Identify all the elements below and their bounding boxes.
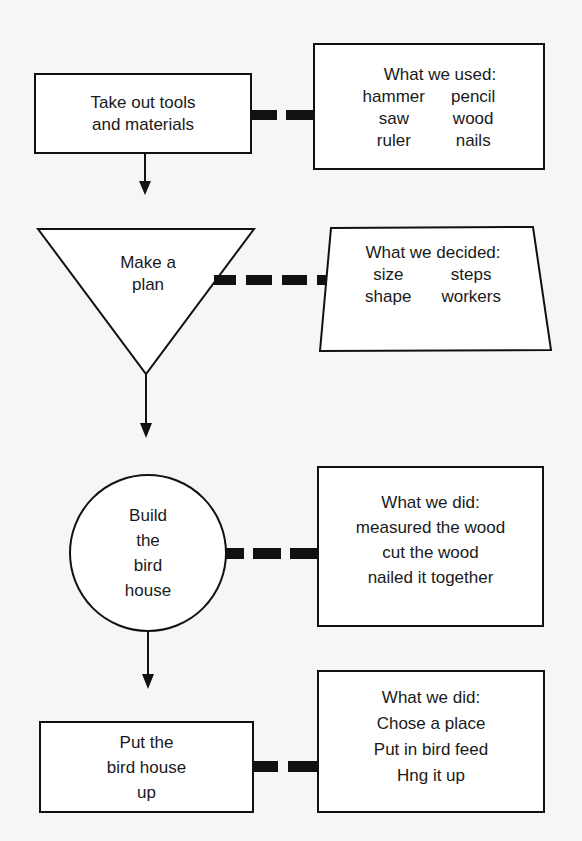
step-4-line: up: [137, 780, 156, 805]
note-item: shape: [365, 286, 411, 308]
step-3-label: Build the bird house: [80, 503, 216, 603]
note-item: size: [365, 264, 411, 286]
note-item: cut the wood: [382, 540, 478, 565]
note-3-text: What we did: measured the wood cut the w…: [318, 467, 543, 626]
arrow-down-icon: [140, 374, 152, 438]
note-2-heading: What we decided:: [365, 242, 500, 264]
step-2-label: Make a plan: [90, 244, 206, 304]
note-item: Chose a place: [377, 711, 486, 737]
step-2-line: Make a: [120, 252, 176, 274]
dashed-connector-2: [214, 275, 327, 285]
dashed-connector-4: [253, 761, 318, 772]
note-item: Hng it up: [397, 763, 465, 789]
step-3-line: Build: [129, 503, 167, 528]
arrow-down-icon: [139, 153, 151, 195]
step-2-line: plan: [132, 274, 164, 296]
step-3-line: the: [136, 528, 160, 553]
dashed-connector-3: [225, 548, 318, 559]
note-item: workers: [441, 286, 501, 308]
note-4-text: What we did: Chose a place Put in bird f…: [318, 671, 544, 812]
step-4-line: bird house: [107, 755, 186, 780]
note-item: Put in bird feed: [374, 737, 488, 763]
step-1-line: and materials: [92, 114, 194, 136]
dashed-connector-1: [251, 110, 314, 120]
note-3-heading: What we did:: [381, 490, 479, 515]
note-1-items: hammer pencil saw wood ruler nails: [363, 86, 496, 152]
note-item: measured the wood: [356, 515, 505, 540]
note-item: saw: [363, 108, 425, 130]
note-2-items: size steps shape workers: [365, 264, 501, 308]
note-item: ruler: [363, 130, 425, 152]
note-item: nails: [451, 130, 495, 152]
note-item: hammer: [363, 86, 425, 108]
note-1-text: What we used: hammer pencil saw wood rul…: [314, 44, 544, 169]
step-3-line: house: [125, 578, 171, 603]
step-3-line: bird: [134, 553, 162, 578]
note-1-heading: What we used:: [384, 64, 496, 86]
arrow-down-icon: [142, 631, 154, 689]
step-1-line: Take out tools: [91, 92, 196, 114]
note-2-text: What we decided: size steps shape worker…: [326, 236, 540, 326]
step-4-label: Put the bird house up: [40, 722, 253, 812]
note-4-heading: What we did:: [382, 685, 480, 711]
step-4-line: Put the: [120, 730, 174, 755]
note-item: steps: [441, 264, 501, 286]
note-item: pencil: [451, 86, 495, 108]
note-item: wood: [451, 108, 495, 130]
note-item: nailed it together: [368, 565, 494, 590]
step-1-label: Take out tools and materials: [35, 74, 251, 153]
